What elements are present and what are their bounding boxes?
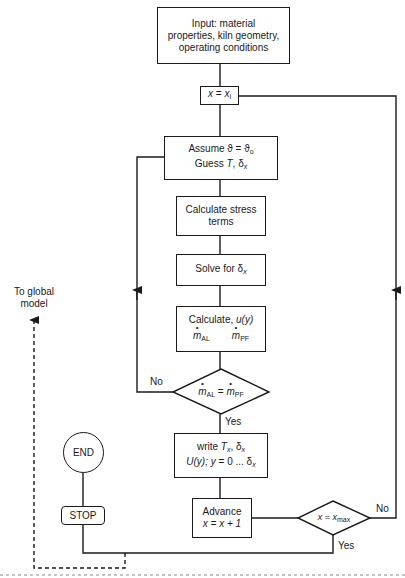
edge-no-loop-left [137, 157, 173, 392]
assume-line-2: Guess T, δx [195, 158, 247, 173]
advance-box: Advance x = x + 1 [192, 498, 252, 538]
mass-yes-label: Yes [225, 416, 241, 428]
solve-text: Solve for δx [195, 263, 246, 278]
advance-line-1: Advance [203, 506, 242, 518]
calculate-box: Calculate, u(y) mAL mPF [176, 306, 266, 352]
mass-flow-al: mAL [193, 330, 210, 345]
write-line-2: U(y); y = 0 ... δx [186, 456, 255, 471]
assume-line-1: Assume ϑ = ϑo [188, 143, 253, 158]
solve-box: Solve for δx [176, 254, 266, 286]
stress-line-2: terms [209, 216, 234, 228]
decision-xmax-text: x = xmax [303, 511, 365, 526]
cropped-caption-remnant [0, 572, 405, 578]
stop-box: STOP [61, 506, 105, 525]
advance-line-2: x = x + 1 [203, 518, 241, 530]
xmax-yes-label: Yes [338, 540, 354, 552]
end-text: END [73, 447, 94, 459]
decision-mass-text: mAL = mPF [183, 386, 259, 401]
to-global-line-1: To global [2, 286, 66, 298]
stop-text: STOP [69, 510, 96, 522]
stress-box: Calculate stress terms [176, 196, 266, 236]
stress-line-1: Calculate stress [185, 204, 256, 216]
to-global-line-2: model [2, 298, 66, 310]
assume-box: Assume ϑ = ϑo Guess T, δx [164, 136, 278, 180]
mass-flow-pf: mPF [232, 330, 249, 345]
input-box: Input: material properties, kiln geometr… [157, 7, 290, 64]
end-circle: END [63, 432, 104, 473]
xmax-no-label: No [376, 503, 389, 515]
init-x-text: x = xi [208, 88, 231, 103]
to-global-model-label: To global model [2, 286, 66, 310]
input-line-2: properties, kiln geometry, [168, 30, 280, 42]
input-line-1: Input: material [192, 18, 255, 30]
mass-no-label: No [150, 376, 163, 388]
calculate-line-2: mAL mPF [193, 330, 249, 345]
write-line-1: write Tx, δx [197, 441, 245, 456]
input-line-3: operating conditions [179, 42, 269, 54]
write-box: write Tx, δx U(y); y = 0 ... δx [174, 433, 268, 478]
init-x-box: x = xi [200, 86, 239, 105]
